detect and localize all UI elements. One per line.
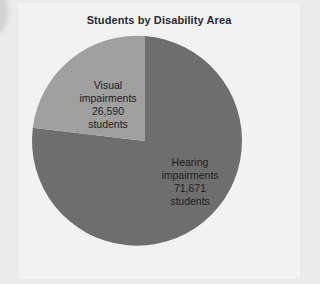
- scan-edge-artifact: [0, 0, 8, 34]
- pie-label-hearing-value: 71,671: [138, 182, 242, 195]
- pie-chart-figure: Students by Disability Area Visual impai…: [0, 0, 320, 284]
- pie-label-hearing-impairments: Hearing impairments 71,671 students: [138, 156, 242, 208]
- pie-label-visual-value: 26,590: [62, 105, 154, 118]
- pie-plot-area: Visual impairments 26,590 students Heari…: [18, 3, 300, 279]
- pie-label-visual-name-line1: Visual: [62, 79, 154, 92]
- pie-label-hearing-unit: students: [138, 195, 242, 208]
- pie-label-hearing-name-line1: Hearing: [138, 156, 242, 169]
- pie-label-hearing-name-line2: impairments: [138, 169, 242, 182]
- pie-label-visual-name-line2: impairments: [62, 92, 154, 105]
- pie-svg: [37, 33, 253, 249]
- chart-panel: Students by Disability Area Visual impai…: [18, 3, 300, 279]
- pie-label-visual-unit: students: [62, 118, 154, 131]
- pie-label-visual-impairments: Visual impairments 26,590 students: [62, 79, 154, 131]
